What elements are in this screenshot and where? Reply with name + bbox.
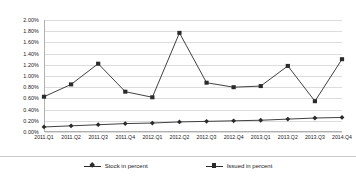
x-axis-tick-label: 2011.Q3 bbox=[88, 134, 108, 140]
y-axis-tick-label: 1.60% bbox=[23, 39, 39, 45]
chart-legend: Stock in percent Issued in percent bbox=[0, 156, 356, 175]
data-point-square bbox=[96, 62, 100, 66]
data-point-diamond bbox=[150, 121, 155, 126]
data-point-diamond bbox=[313, 116, 318, 121]
data-point-diamond bbox=[42, 125, 47, 130]
data-point-square bbox=[150, 95, 154, 99]
data-point-square bbox=[232, 85, 236, 89]
y-axis-labels: 2.00%1.80%1.60%1.40%1.20%1.00%0.80%0.60%… bbox=[0, 20, 42, 132]
data-series-layer bbox=[44, 20, 342, 132]
chart-container: 2.00%1.80%1.60%1.40%1.20%1.00%0.80%0.60%… bbox=[0, 0, 356, 179]
data-point-square bbox=[42, 95, 46, 99]
data-point-diamond bbox=[340, 115, 345, 120]
x-axis-tick-label: 2013.Q3 bbox=[305, 134, 325, 140]
data-point-diamond bbox=[258, 118, 263, 123]
series-stock bbox=[42, 115, 345, 129]
data-point-square bbox=[340, 57, 344, 61]
x-axis-tick-label: 2012.Q3 bbox=[197, 134, 217, 140]
y-axis-tick-label: 0.40% bbox=[23, 107, 39, 113]
square-marker-icon bbox=[206, 162, 223, 170]
data-point-square bbox=[286, 64, 290, 68]
legend-label-issued: Issued in percent bbox=[227, 163, 273, 169]
diamond-marker-icon bbox=[84, 162, 101, 170]
data-point-diamond bbox=[96, 122, 101, 127]
gridline bbox=[45, 132, 342, 133]
series-line bbox=[44, 117, 342, 127]
legend-item-issued: Issued in percent bbox=[206, 162, 273, 170]
x-axis-tick-label: 2013.Q2 bbox=[278, 134, 298, 140]
y-axis-tick-label: 2.00% bbox=[23, 17, 39, 23]
data-point-diamond bbox=[204, 119, 209, 124]
y-axis-tick-label: 0.80% bbox=[23, 84, 39, 90]
data-point-square bbox=[259, 84, 263, 88]
data-point-diamond bbox=[285, 117, 290, 122]
data-point-square bbox=[123, 90, 127, 94]
x-axis-tick-label: 2012.Q4 bbox=[224, 134, 244, 140]
data-point-diamond bbox=[123, 121, 128, 126]
data-point-square bbox=[313, 99, 317, 103]
data-point-square bbox=[204, 81, 208, 85]
x-axis-tick-label: 2011.Q4 bbox=[116, 134, 136, 140]
y-axis-tick-label: 1.20% bbox=[23, 62, 39, 68]
data-point-square bbox=[177, 31, 181, 35]
x-axis-tick-label: 2012.Q1 bbox=[142, 134, 162, 140]
data-point-diamond bbox=[231, 118, 236, 123]
legend-label-stock: Stock in percent bbox=[105, 163, 148, 169]
y-axis-tick-label: 0.60% bbox=[23, 95, 39, 101]
legend-item-stock: Stock in percent bbox=[84, 162, 148, 170]
y-axis-tick-label: 1.80% bbox=[23, 28, 39, 34]
x-axis-tick-label: 2014.Q4 bbox=[332, 134, 352, 140]
data-point-diamond bbox=[177, 120, 182, 125]
data-point-square bbox=[69, 82, 73, 86]
x-axis-tick-label: 2012.Q2 bbox=[170, 134, 190, 140]
y-axis-tick-label: 1.00% bbox=[23, 73, 39, 79]
x-axis-tick-label: 2011.Q1 bbox=[34, 134, 54, 140]
y-axis-tick-label: 0.20% bbox=[23, 118, 39, 124]
data-point-diamond bbox=[69, 123, 74, 128]
x-axis-labels: 2011.Q12011.Q22011.Q32011.Q42012.Q12012.… bbox=[44, 134, 342, 146]
x-axis-tick-label: 2011.Q2 bbox=[61, 134, 81, 140]
x-axis-tick-label: 2013.Q1 bbox=[251, 134, 271, 140]
y-axis-tick-label: 1.40% bbox=[23, 51, 39, 57]
series-line bbox=[44, 33, 342, 101]
series-issued bbox=[42, 31, 344, 103]
